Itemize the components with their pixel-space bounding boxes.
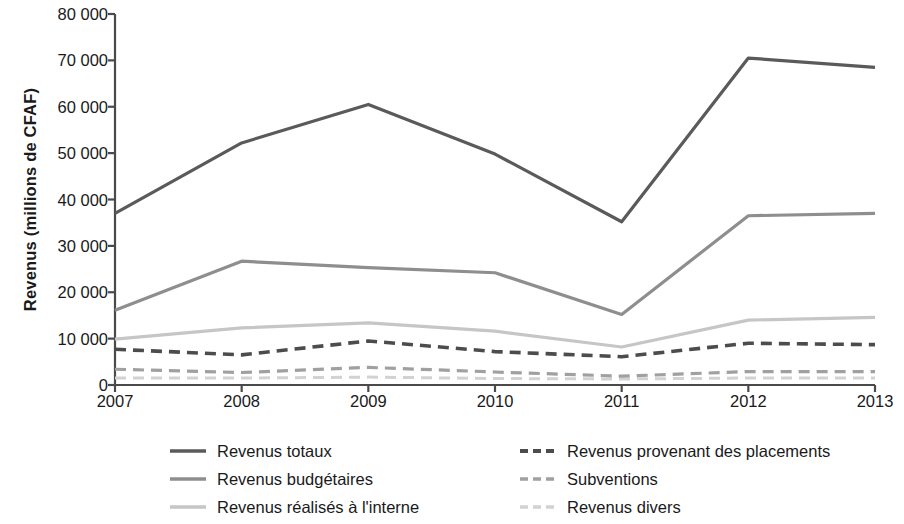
legend-label: Revenus divers: [567, 499, 681, 516]
legend-swatch-icon: [520, 501, 556, 513]
revenue-line-chart: Revenus (millions de CFAF) 80 00070 0006…: [0, 0, 904, 524]
plot-area: [0, 0, 904, 430]
legend-label: Revenus réalisés à l'interne: [217, 499, 419, 516]
legend-item[interactable]: Revenus totaux: [170, 438, 332, 464]
series-line: [115, 377, 875, 379]
series-line: [115, 341, 875, 357]
legend-item[interactable]: Revenus budgétaires: [170, 466, 373, 492]
legend-label: Revenus budgétaires: [217, 471, 373, 488]
legend-swatch-icon: [170, 473, 206, 485]
legend-swatch-icon: [520, 473, 556, 485]
series-line: [115, 213, 875, 314]
legend-label: Subventions: [567, 471, 658, 488]
legend-item[interactable]: Revenus réalisés à l'interne: [170, 494, 419, 520]
legend-label: Revenus totaux: [217, 443, 332, 460]
legend-item[interactable]: Revenus provenant des placements: [520, 438, 830, 464]
legend-swatch-icon: [170, 445, 206, 457]
legend-label: Revenus provenant des placements: [567, 443, 830, 460]
series-line: [115, 58, 875, 222]
legend-item[interactable]: Revenus divers: [520, 494, 681, 520]
chart-legend: Revenus totauxRevenus budgétairesRevenus…: [0, 432, 904, 524]
legend-item[interactable]: Subventions: [520, 466, 658, 492]
legend-swatch-icon: [170, 501, 206, 513]
series-line: [115, 367, 875, 376]
legend-swatch-icon: [520, 445, 556, 457]
